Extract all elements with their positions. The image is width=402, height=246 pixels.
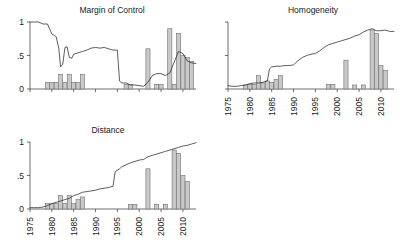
bar bbox=[133, 204, 137, 209]
x-tick-label: 1980 bbox=[47, 217, 57, 236]
bar bbox=[155, 84, 159, 89]
bar bbox=[63, 204, 67, 209]
bar bbox=[326, 84, 330, 89]
bar bbox=[185, 182, 189, 209]
bar bbox=[159, 84, 163, 89]
x-tick-label: 1980 bbox=[245, 97, 255, 116]
bar bbox=[72, 82, 76, 89]
bar bbox=[274, 80, 278, 89]
x-tick-label: 1985 bbox=[267, 97, 277, 116]
y-tick-label: 1 bbox=[19, 137, 24, 147]
bar bbox=[146, 169, 150, 209]
bar bbox=[76, 200, 80, 209]
panel-margin-of-control: Margin of Control0.51 bbox=[17, 5, 196, 94]
x-tick-label: 1995 bbox=[112, 217, 122, 236]
bar bbox=[257, 76, 261, 89]
data-line bbox=[30, 143, 196, 208]
y-tick-label: .5 bbox=[17, 171, 24, 181]
bar bbox=[181, 176, 185, 210]
panel-title: Distance bbox=[91, 125, 124, 135]
x-tick-label: 1990 bbox=[289, 97, 299, 116]
bar bbox=[80, 74, 84, 89]
y-tick-label: 1 bbox=[19, 17, 24, 27]
bar bbox=[67, 74, 71, 89]
bar bbox=[185, 58, 189, 89]
bar bbox=[45, 82, 49, 89]
x-tick-label: 2000 bbox=[134, 217, 144, 236]
y-tick-label: 0 bbox=[19, 204, 24, 214]
bar bbox=[76, 82, 80, 89]
bar bbox=[168, 29, 172, 89]
bar-series bbox=[45, 150, 189, 209]
bar bbox=[172, 150, 176, 209]
x-tick-label: 1975 bbox=[25, 217, 35, 236]
bar bbox=[331, 84, 335, 89]
x-tick-label: 1995 bbox=[310, 97, 320, 116]
x-tick-label: 1990 bbox=[91, 217, 101, 236]
bar bbox=[252, 84, 256, 89]
data-line bbox=[228, 29, 394, 87]
bar bbox=[379, 66, 383, 89]
bar bbox=[270, 82, 274, 89]
bar bbox=[146, 49, 150, 89]
bar bbox=[370, 30, 374, 89]
y-tick-label: .5 bbox=[17, 51, 24, 61]
bar bbox=[181, 56, 185, 90]
bar bbox=[124, 84, 128, 89]
bar bbox=[172, 84, 176, 89]
bar bbox=[155, 204, 159, 209]
panel-homogeneity: Homogeneity19751980198519901995200020052… bbox=[223, 5, 394, 116]
y-tick-label: 0 bbox=[19, 84, 24, 94]
bar bbox=[59, 196, 63, 209]
bar bbox=[344, 60, 348, 89]
multi-panel-figure: Margin of Control0.51 Homogeneity1975198… bbox=[0, 0, 402, 246]
bar bbox=[361, 85, 365, 89]
bar bbox=[176, 33, 180, 89]
bar bbox=[54, 82, 58, 89]
x-tick-label: 2010 bbox=[178, 217, 188, 236]
bar bbox=[128, 204, 132, 209]
bar bbox=[54, 204, 58, 209]
bar bbox=[59, 74, 63, 89]
bar bbox=[265, 81, 269, 89]
bar bbox=[176, 153, 180, 209]
bar bbox=[80, 197, 84, 209]
x-tick-label: 1985 bbox=[69, 217, 79, 236]
bar bbox=[374, 33, 378, 89]
bar bbox=[353, 85, 357, 89]
x-tick-label: 2005 bbox=[156, 217, 166, 236]
x-tick-label: 2000 bbox=[332, 97, 342, 116]
bar bbox=[72, 204, 76, 209]
bar bbox=[278, 76, 282, 89]
bar-series bbox=[243, 30, 387, 89]
panel-title: Homogeneity bbox=[288, 5, 339, 15]
bar bbox=[50, 82, 54, 89]
bar bbox=[63, 82, 67, 89]
bar bbox=[190, 62, 194, 89]
bar bbox=[383, 70, 387, 89]
panel-distance: Distance0.511975198019851990199520002005… bbox=[17, 125, 196, 236]
x-tick-label: 2005 bbox=[354, 97, 364, 116]
panel-title: Margin of Control bbox=[79, 5, 144, 15]
bar bbox=[248, 84, 252, 89]
x-tick-label: 2010 bbox=[376, 97, 386, 116]
bar bbox=[163, 204, 167, 209]
bar bbox=[261, 83, 265, 89]
x-tick-label: 1975 bbox=[223, 97, 233, 116]
